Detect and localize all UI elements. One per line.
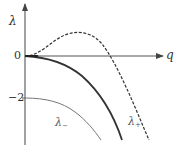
lambda-plus-symbol: λ bbox=[128, 115, 135, 128]
tick-label-zero: 0 bbox=[14, 50, 21, 61]
plot-canvas bbox=[0, 0, 180, 149]
lambda-minus-symbol: λ bbox=[55, 116, 62, 129]
curve-thick-solid bbox=[25, 56, 122, 140]
lambda-minus-subscript: − bbox=[62, 122, 68, 130]
tick-label-minus-two: −2 bbox=[8, 92, 24, 103]
y-axis-label: λ bbox=[9, 15, 17, 27]
lambda-plus-subscript: + bbox=[135, 121, 141, 129]
x-axis-label: q bbox=[166, 49, 174, 61]
lambda-plus-label: λ+ bbox=[128, 116, 141, 129]
lambda-minus-label: λ− bbox=[55, 117, 68, 130]
